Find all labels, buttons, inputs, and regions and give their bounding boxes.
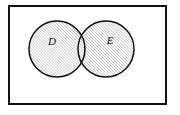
venn-diagram-figure: D E	[0, 0, 180, 115]
set-e-label: E	[106, 34, 114, 46]
venn-diagram-canvas: D E	[0, 0, 180, 115]
set-d-label: D	[47, 35, 56, 47]
